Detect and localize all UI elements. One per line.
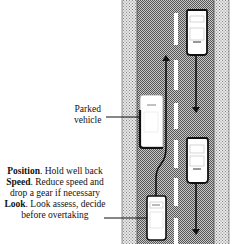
- tip-speed-cont: drop a gear if necessary: [3, 188, 107, 199]
- tip-look: Look. Look assess, decide: [3, 199, 107, 210]
- parked-car: [140, 95, 163, 148]
- tip-look-cont: before overtaking: [3, 210, 107, 221]
- overtaking-diagram: Parked vehicle Position. Hold well back …: [0, 0, 234, 244]
- tip-speed: Speed. Reduce speed and: [3, 177, 107, 188]
- tip-position: Position. Hold well back: [3, 166, 107, 177]
- oncoming-car-lower: [187, 138, 208, 183]
- overtaking-tips: Position. Hold well back Speed. Reduce s…: [3, 166, 107, 221]
- parked-vehicle-label: Parked vehicle: [74, 104, 101, 126]
- oncoming-car-top: [187, 10, 207, 55]
- overtaking-car: [147, 196, 166, 240]
